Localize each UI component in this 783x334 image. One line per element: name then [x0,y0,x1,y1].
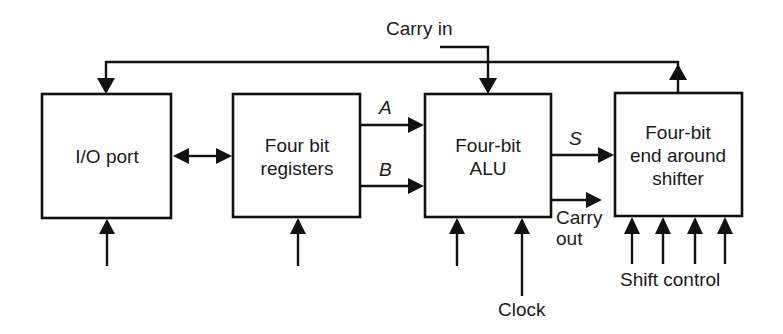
io-port-input [99,219,115,266]
clock-label: Clock [498,299,546,320]
arrow-left-icon [173,148,189,164]
arrow-up-icon [687,217,703,234]
shifter-label-line3: shifter [652,168,704,189]
alu-input [449,218,465,266]
arrow-up-icon [655,217,671,234]
arrow-up-icon [449,218,465,234]
arrow-up-icon [99,219,115,234]
arrow-up-icon [514,218,530,234]
registers-label-line2: registers [261,158,334,179]
arrow-right-icon [216,148,232,164]
io-registers-bus [173,148,232,164]
arrow-right-icon [586,192,602,208]
arrow-right-icon [408,178,424,194]
feedback-loop [97,62,687,94]
io-port-label: I/O port [75,146,139,167]
arrow-up-icon [290,218,306,234]
carry-out-signal [551,192,602,208]
alu-block-diagram: Carry in I/O port Four bit registers Fou… [0,0,783,334]
carry-in-signal [440,47,497,94]
arrow-up-icon [624,217,640,234]
carry-out-label-line2: out [556,228,583,249]
b-label: B [379,159,392,180]
arrow-up-icon [669,64,687,80]
carry-in-label: Carry in [386,18,453,39]
a-bus [360,117,424,133]
alu-label-line2: ALU [470,158,507,179]
arrow-right-icon [408,117,424,133]
alu-label-line1: Four-bit [455,135,521,156]
clock-input [514,218,530,296]
b-bus [360,178,424,194]
shifter-label-line1: Four-bit [645,122,711,143]
s-label: S [569,128,582,149]
shift-control-inputs [624,217,733,264]
s-bus [551,147,614,163]
arrow-up-icon [717,217,733,234]
arrow-down-icon [479,78,497,94]
shift-control-label: Shift control [620,269,720,290]
a-label: A [378,97,392,118]
registers-input [290,218,306,266]
arrow-right-icon [598,147,614,163]
arrow-down-icon [97,78,115,94]
carry-out-label-line1: Carry [556,207,603,228]
registers-label-line1: Four bit [265,135,330,156]
shifter-label-line2: end around [630,145,726,166]
